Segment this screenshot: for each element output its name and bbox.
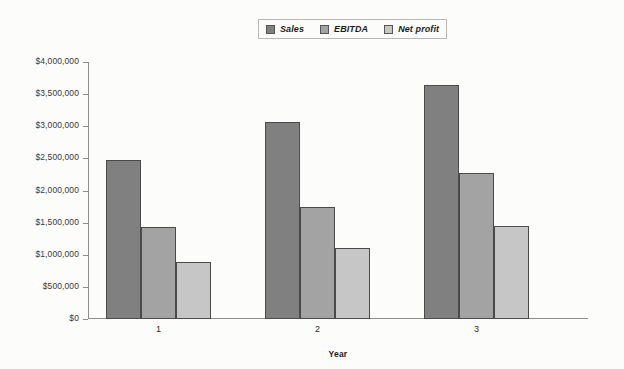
legend-label-net-profit: Net profit — [398, 24, 439, 34]
legend-label-ebitda: EBITDA — [334, 24, 368, 34]
x-tick-label: 1 — [106, 324, 211, 334]
y-tick-label: $500,000 — [43, 281, 79, 291]
bar[interactable] — [141, 227, 176, 319]
bar[interactable] — [424, 85, 459, 320]
legend-item-sales: Sales — [266, 24, 304, 34]
legend-item-ebitda: EBITDA — [320, 24, 368, 34]
bar[interactable] — [265, 122, 300, 319]
plot-area: $0$500,000$1,000,000$1,500,000$2,000,000… — [88, 62, 588, 319]
y-tick: $1,000,000 — [83, 255, 88, 256]
y-tick: $4,000,000 — [83, 62, 88, 63]
legend-swatch-sales — [266, 25, 275, 34]
chart-legend: Sales EBITDA Net profit — [258, 19, 447, 39]
legend-label-sales: Sales — [280, 24, 304, 34]
y-tick: $500,000 — [83, 287, 88, 288]
y-tick: $3,000,000 — [83, 126, 88, 127]
legend-item-net-profit: Net profit — [384, 24, 439, 34]
bar[interactable] — [300, 207, 335, 319]
bar[interactable] — [459, 173, 494, 319]
legend-swatch-ebitda — [320, 25, 329, 34]
bar-chart: Sales EBITDA Net profit $0$500,000$1,000… — [0, 0, 624, 369]
y-tick-label: $3,500,000 — [35, 88, 79, 98]
x-tick-label: 2 — [265, 324, 370, 334]
x-tick-label: 3 — [424, 324, 529, 334]
y-tick-label: $2,000,000 — [35, 185, 79, 195]
y-tick: $1,500,000 — [83, 223, 88, 224]
y-tick-label: $3,000,000 — [35, 120, 79, 130]
y-tick-label: $4,000,000 — [35, 56, 79, 66]
y-axis-line — [88, 62, 89, 319]
y-tick: $2,500,000 — [83, 158, 88, 159]
bar[interactable] — [335, 248, 370, 319]
y-tick-label: $1,000,000 — [35, 249, 79, 259]
y-tick: $0 — [83, 319, 88, 320]
y-tick-label: $1,500,000 — [35, 217, 79, 227]
y-tick-label: $0 — [69, 313, 79, 323]
bar[interactable] — [106, 160, 141, 319]
bar[interactable] — [176, 262, 211, 319]
bar[interactable] — [494, 226, 529, 319]
bar-group — [424, 62, 529, 319]
y-tick: $3,500,000 — [83, 94, 88, 95]
y-tick: $2,000,000 — [83, 191, 88, 192]
x-axis-title: Year — [88, 349, 588, 359]
bar-group — [106, 62, 211, 319]
bar-group — [265, 62, 370, 319]
legend-swatch-net-profit — [384, 25, 393, 34]
y-tick-label: $2,500,000 — [35, 152, 79, 162]
